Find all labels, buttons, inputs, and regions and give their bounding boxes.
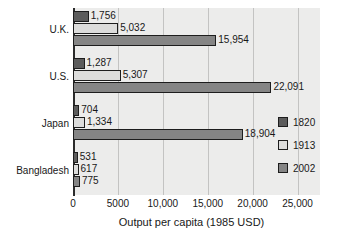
bar-value-label: 22,091 [271, 81, 304, 92]
bar-value-label: 15,954 [216, 34, 249, 45]
x-tick-label: 20,000 [237, 198, 268, 209]
x-tick-label: 25,000 [282, 198, 313, 209]
category-label-bangladesh: Bangladesh [16, 165, 69, 176]
legend-label: 1820 [293, 117, 315, 128]
legend-label: 2002 [293, 163, 315, 174]
legend-item-1913[interactable]: 1913 [278, 139, 315, 151]
bar-row: 5,032 [73, 23, 320, 34]
bar-row: 15,954 [73, 35, 320, 46]
legend-swatch-icon [278, 117, 288, 127]
chart-screenshot: 1,7565,03215,9541,2875,30722,0917041,334… [0, 0, 341, 243]
bar-row: 704 [73, 105, 320, 116]
bar-row: 22,091 [73, 82, 320, 93]
legend-item-1820[interactable]: 1820 [278, 116, 315, 128]
bar-value-label: 1,287 [85, 57, 112, 68]
x-tick-label: 15,000 [192, 198, 223, 209]
bar-row: 1,287 [73, 58, 320, 69]
bar-value-label: 18,904 [243, 128, 276, 139]
bar-value-label: 5,032 [118, 22, 145, 33]
bar-value-label: 617 [79, 163, 98, 174]
x-tick-label: 0 [70, 198, 76, 209]
bar-uk-2002 [73, 35, 216, 46]
bar-value-label: 704 [79, 104, 98, 115]
x-axis-title: Output per capita (1985 USD) [0, 216, 341, 228]
bar-value-label: 775 [80, 175, 99, 186]
bar-value-label: 531 [78, 151, 97, 162]
bar-us-1820 [73, 58, 85, 69]
x-tick-label: 10,000 [148, 198, 179, 209]
bar-japan-2002 [73, 129, 243, 140]
bar-japan-1913 [73, 117, 85, 128]
category-label-uk: U.K. [50, 24, 69, 35]
bar-us-2002 [73, 82, 271, 93]
x-tick-label: 5000 [107, 198, 129, 209]
bar-value-label: 1,756 [89, 10, 116, 21]
bar-us-1913 [73, 70, 121, 81]
legend-swatch-icon [278, 163, 288, 173]
category-label-us: U.S. [50, 71, 69, 82]
bar-uk-1913 [73, 23, 118, 34]
bar-uk-1820 [73, 11, 89, 22]
legend-item-2002[interactable]: 2002 [278, 162, 315, 174]
bar-row: 1,756 [73, 11, 320, 22]
legend-label: 1913 [293, 140, 315, 151]
category-label-japan: Japan [42, 118, 69, 129]
bar-value-label: 5,307 [121, 69, 148, 80]
bar-row: 5,307 [73, 70, 320, 81]
bar-value-label: 1,334 [85, 116, 112, 127]
legend-swatch-icon [278, 140, 288, 150]
bar-group: 1,7565,03215,954 [73, 11, 320, 47]
legend: 182019132002 [278, 116, 315, 185]
bar-group: 1,2875,30722,091 [73, 58, 320, 94]
bar-bangladesh-2002 [73, 176, 80, 187]
